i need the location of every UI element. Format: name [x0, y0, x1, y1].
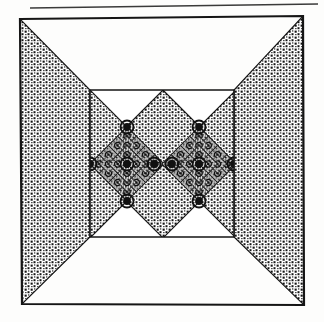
- figure-svg: [0, 0, 324, 322]
- figure-root: [0, 0, 324, 322]
